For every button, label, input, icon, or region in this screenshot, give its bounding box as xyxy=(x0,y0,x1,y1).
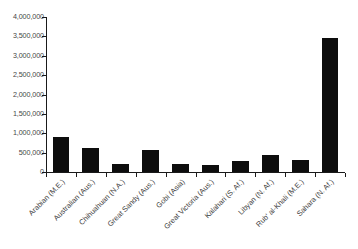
x-axis-category-labels: Arabian (M.E.)Australian (Aus.)Chihuahua… xyxy=(0,0,358,249)
bar-chart-figure: 4,000,0003,500,0003,000,0002,500,0002,00… xyxy=(0,0,358,249)
